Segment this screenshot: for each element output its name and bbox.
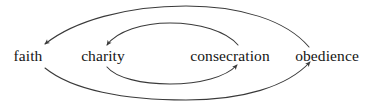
edge-outer-top-obedience-to-faith	[45, 6, 309, 47]
node-label-consecration: consecration	[190, 48, 270, 64]
edge-inner-top-consecration-to-charity	[107, 23, 238, 45]
edge-inner-bottom-charity-to-consecration	[107, 65, 237, 84]
diagram-canvas: faith charity consecration obedience	[0, 0, 373, 108]
node-label-faith: faith	[14, 48, 43, 64]
node-label-charity: charity	[81, 48, 125, 64]
node-label-obedience: obedience	[295, 48, 359, 64]
edge-outer-bottom-faith-to-obedience	[45, 62, 310, 100]
